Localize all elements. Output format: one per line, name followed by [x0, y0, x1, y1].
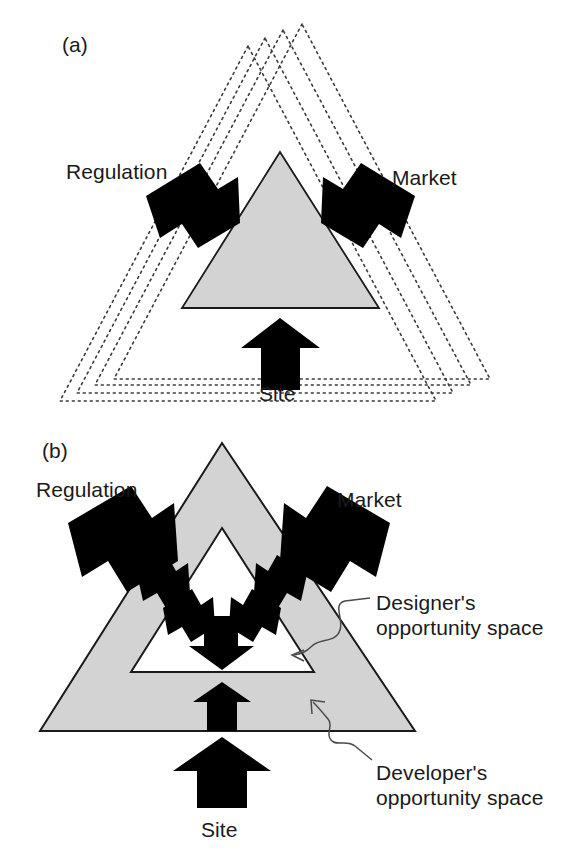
panel-a-graphic	[0, 0, 563, 420]
panel-b-site-label: Site	[201, 818, 238, 843]
designer-opportunity-label: Designer's opportunity space	[376, 590, 543, 640]
developer-opportunity-label-line1: Developer's	[376, 760, 543, 785]
panel-a-regulation-label: Regulation	[66, 160, 167, 185]
panel-a-tag: (a)	[62, 33, 88, 58]
panel-b-tag: (b)	[42, 439, 68, 464]
panel-b: (b) Regulation Market Designer's opportu…	[0, 420, 563, 856]
developer-opportunity-label: Developer's opportunity space	[376, 760, 543, 810]
panel-a-market-label: Market	[392, 166, 457, 191]
panel-a-site-label: Site	[259, 382, 296, 407]
panel-b-regulation-label: Regulation	[36, 478, 137, 503]
designer-opportunity-label-line2: opportunity space	[376, 615, 543, 640]
site-arrow-b	[173, 737, 271, 808]
designer-opportunity-label-line1: Designer's	[376, 590, 543, 615]
panel-a: (a) Regulation Market Site	[0, 0, 563, 420]
panel-b-market-label: Market	[337, 488, 402, 513]
developer-opportunity-label-line2: opportunity space	[376, 785, 543, 810]
figure-root: (a) Regulation Market Site	[0, 0, 563, 856]
